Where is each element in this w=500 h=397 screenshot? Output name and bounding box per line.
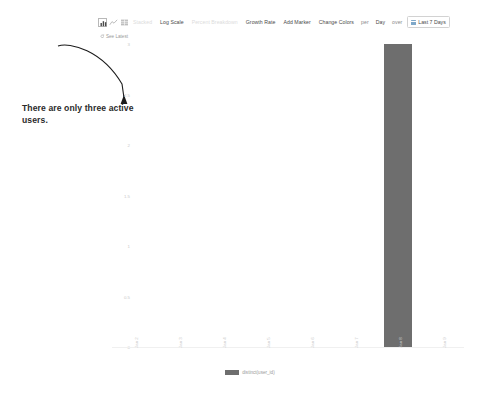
chart-toolbar: Stacked Log Scale Percent Breakdown Grow… bbox=[98, 14, 496, 30]
legend-label[interactable]: distinct(user_id) bbox=[242, 370, 274, 375]
date-range-label: Last 7 Days bbox=[418, 19, 445, 25]
x-axis-tick-label: Jan 3 bbox=[178, 337, 183, 348]
toolbar-stacked-toggle[interactable]: Stacked bbox=[129, 19, 156, 25]
toolbar-percent-breakdown-toggle[interactable]: Percent Breakdown bbox=[188, 19, 242, 25]
refresh-icon bbox=[100, 34, 105, 39]
date-range-button[interactable]: Last 7 Days bbox=[407, 16, 449, 28]
see-latest-link[interactable]: See Latest bbox=[100, 34, 128, 39]
x-axis-tick-label: Jan 4 bbox=[222, 337, 227, 348]
toolbar-growth-rate-toggle[interactable]: Growth Rate bbox=[242, 19, 280, 25]
x-axis-tick-label: Jan 7 bbox=[354, 337, 359, 348]
toolbar-per-label: per bbox=[358, 19, 372, 25]
bar-chart-icon[interactable] bbox=[98, 18, 107, 27]
see-latest-label: See Latest bbox=[106, 34, 128, 39]
chart-bar[interactable] bbox=[384, 44, 411, 347]
line-chart-icon[interactable] bbox=[109, 18, 118, 27]
x-axis-tick-label: Jan 9 bbox=[442, 337, 447, 348]
toolbar-interval-selector[interactable]: Day bbox=[372, 19, 389, 25]
toolbar-change-colors-button[interactable]: Change Colors bbox=[315, 19, 358, 25]
chart-type-switcher[interactable] bbox=[98, 18, 129, 27]
calendar-icon bbox=[411, 20, 416, 25]
x-axis-tick-label: Jan 2 bbox=[134, 337, 139, 348]
x-axis-tick-label: Jan 8 bbox=[398, 337, 403, 348]
table-view-icon[interactable] bbox=[120, 18, 129, 27]
chart-plot-area bbox=[112, 44, 464, 347]
toolbar-over-label: over bbox=[389, 19, 405, 25]
toolbar-add-marker-button[interactable]: Add Marker bbox=[279, 19, 314, 25]
legend-swatch bbox=[225, 370, 239, 375]
x-axis-tick-label: Jan 6 bbox=[310, 337, 315, 348]
x-axis-tick-label: Jan 5 bbox=[266, 337, 271, 348]
chart-legend: distinct(user_id) bbox=[0, 370, 500, 375]
toolbar-log-scale-toggle[interactable]: Log Scale bbox=[156, 19, 188, 25]
